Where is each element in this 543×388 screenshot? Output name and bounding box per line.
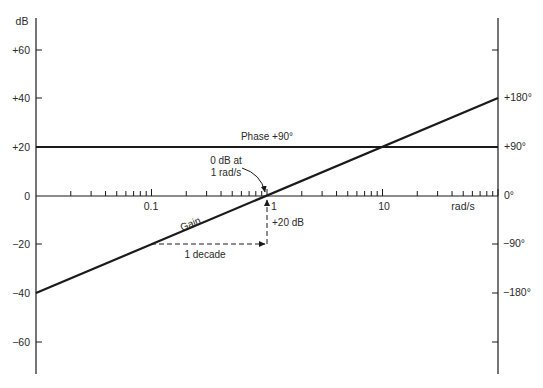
x-axis-unit-label: rad/s [451, 200, 474, 212]
bode-plot: dB +60 +40 +20 0 −20 −40 −60 +180° +90° … [0, 0, 543, 388]
y-tick-label: 0 [24, 190, 30, 202]
phase-tick-label: +90° [504, 140, 526, 152]
zero-db-text: 1 rad/s [211, 167, 242, 178]
x-tick-label: 0.1 [144, 200, 159, 212]
y-axis-unit-label: dB [16, 15, 29, 27]
x-tick-label: 1 [271, 200, 277, 212]
phase-tick-label: −180° [503, 286, 531, 298]
decade-annotation: 1 decade +20 dB [151, 200, 304, 260]
y-tick-label: −40 [12, 287, 30, 299]
y-tick-label: +20 [12, 141, 30, 153]
phase-series: Phase +90° [36, 131, 498, 147]
gain-label: Gain [178, 214, 202, 232]
x-tick-label: 10 [378, 200, 390, 212]
y-tick-label: +60 [12, 44, 30, 56]
y-tick-label: +40 [12, 92, 30, 104]
phase-tick-label: +180° [504, 91, 532, 103]
left-y-axis: dB +60 +40 +20 0 −20 −40 −60 [12, 15, 42, 374]
plus-20db-label: +20 dB [272, 217, 304, 228]
zero-db-annotation: 0 dB at 1 rad/s [210, 155, 265, 192]
y-tick-label: −60 [12, 336, 30, 348]
decade-label: 1 decade [184, 249, 226, 260]
zero-db-text: 0 dB at [210, 155, 242, 166]
phase-label: Phase +90° [241, 131, 293, 142]
y-tick-label: −20 [12, 238, 30, 250]
phase-tick-label: 0° [504, 189, 514, 201]
phase-tick-label: −90° [503, 237, 525, 249]
